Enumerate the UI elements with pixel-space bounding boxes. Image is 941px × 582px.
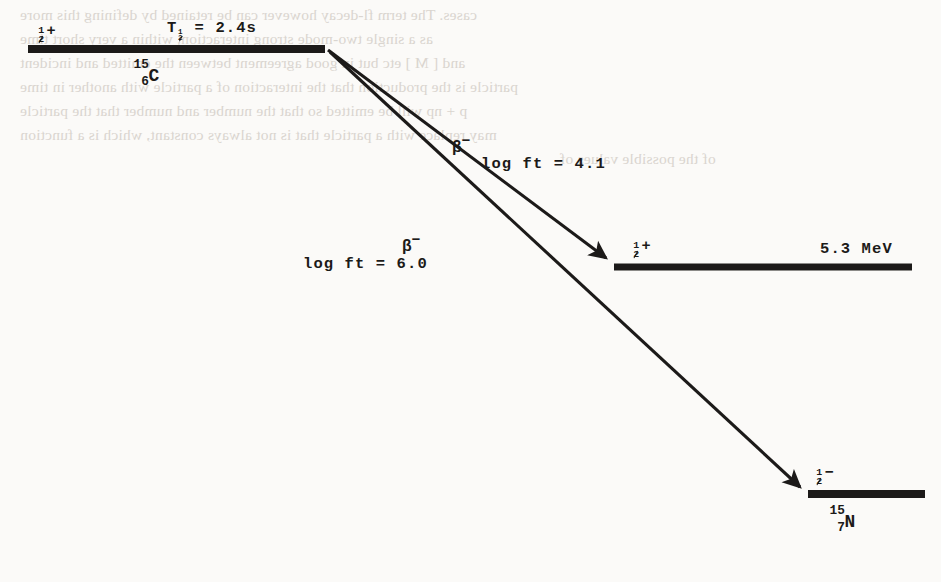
parent-spin-parity-label: 1 2 + — [37, 22, 56, 46]
beta-glyph: β — [452, 139, 462, 157]
parent-nuclide-numbers: 15 6 — [131, 57, 149, 91]
excited-energy-label: 5.3 MeV — [820, 240, 893, 258]
beta-symbol-ground-branch: β− — [402, 232, 420, 256]
parent-atomic-number: 6 — [141, 76, 149, 89]
excited-parity-sign: + — [641, 237, 651, 255]
parent-spin-fraction: 1 2 — [37, 27, 46, 44]
ground-atomic-number: 7 — [837, 522, 845, 535]
ground-nuclide-numbers: 15 7 — [827, 503, 845, 537]
logft-label-excited-branch: log ft = 4.1 — [481, 155, 606, 173]
ground-parity-sign: − — [824, 464, 834, 482]
logft-label-ground-branch: log ft = 6.0 — [303, 255, 428, 273]
beta-charge-sign: − — [412, 232, 421, 248]
half-life-symbol: T — [167, 19, 177, 37]
excited-spin-fraction: 1 2 — [632, 242, 641, 259]
half-life-value: 2.4s — [215, 19, 257, 37]
parent-nuclide-label: 15 6 C — [131, 57, 159, 91]
ground-nuclide-label: 15 7 N — [827, 503, 855, 537]
parent-spin-denominator: 2 — [37, 35, 46, 45]
ground-mass-number: 15 — [830, 505, 845, 518]
parent-mass-number: 15 — [134, 59, 149, 72]
ground-spin-parity-label: 1 2 − — [815, 464, 834, 488]
parent-parity-sign: + — [46, 22, 56, 40]
ground-spin-fraction: 1 2 — [815, 469, 824, 486]
half-life-label: T12 = 2.4s — [167, 19, 257, 44]
ground-element-symbol: N — [845, 512, 856, 532]
half-life-equals: = — [195, 19, 205, 37]
beta-symbol-excited-branch: β− — [452, 133, 470, 157]
half-life-subscript: 12 — [177, 28, 184, 44]
parent-element-symbol: C — [149, 66, 160, 86]
excited-spin-parity-label: 1 2 + — [632, 237, 651, 261]
beta-charge-sign: − — [462, 133, 471, 149]
beta-glyph: β — [402, 238, 412, 256]
